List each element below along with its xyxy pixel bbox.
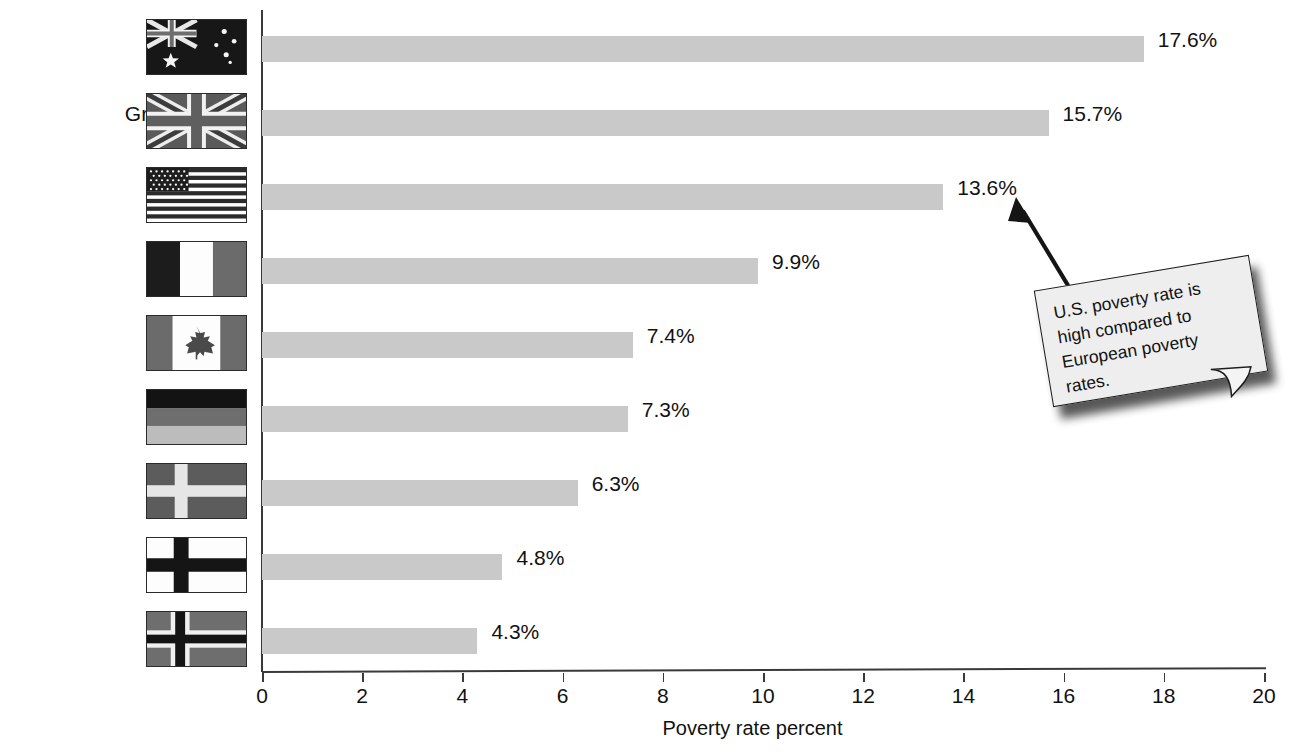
x-tick-label: 0	[237, 684, 287, 708]
x-tick	[362, 673, 364, 682]
x-tick-label: 12	[838, 684, 888, 708]
france-flag	[146, 241, 247, 297]
callout-page-curl-icon	[1208, 361, 1257, 402]
x-tick	[663, 673, 665, 682]
x-tick-label: 6	[538, 684, 588, 708]
bar-canada[interactable]	[262, 332, 633, 358]
norway-flag	[146, 611, 247, 667]
x-tick-label: 2	[337, 684, 387, 708]
great-britain-flag	[146, 93, 247, 149]
x-tick-label: 10	[738, 684, 788, 708]
bar-great-britain[interactable]	[262, 110, 1049, 136]
bar-value-label: 4.8%	[516, 546, 564, 570]
bar-norway[interactable]	[262, 628, 477, 654]
usa-flag	[146, 167, 247, 223]
bar-row: Finland4.8%	[0, 528, 1289, 602]
x-tick	[1164, 673, 1166, 682]
bar-value-label: 17.6%	[1158, 28, 1218, 52]
x-axis-title: Poverty rate percent	[0, 717, 1289, 740]
bar-australia[interactable]	[262, 36, 1144, 62]
x-tick-label: 8	[638, 684, 688, 708]
germany-flag	[146, 389, 247, 445]
callout-annotation: U.S. poverty rate is high compared to Eu…	[1036, 268, 1286, 418]
bar-finland[interactable]	[262, 554, 502, 580]
canada-flag	[146, 315, 247, 371]
x-tick	[563, 673, 565, 682]
x-tick	[462, 673, 464, 682]
x-axis-title-text: Poverty rate percent	[662, 717, 842, 739]
bar-row: Sweden6.3%	[0, 454, 1289, 528]
finland-flag	[146, 537, 247, 593]
bar-value-label: 6.3%	[592, 472, 640, 496]
bar-germany[interactable]	[262, 406, 628, 432]
x-tick-label: 16	[1039, 684, 1089, 708]
x-tick-label: 20	[1239, 684, 1289, 708]
bar-value-label: 7.4%	[647, 324, 695, 348]
bar-usa[interactable]	[262, 184, 943, 210]
x-tick	[763, 673, 765, 682]
bar-row: Great Britain15.7%	[0, 84, 1289, 158]
poverty-rate-bar-chart: Australia17.6%Great Britain15.7%USA13.6%…	[0, 0, 1289, 755]
australia-flag	[146, 19, 247, 75]
bar-value-label: 15.7%	[1063, 102, 1123, 126]
bar-row: Norway4.3%	[0, 602, 1289, 676]
bar-value-label: 7.3%	[642, 398, 690, 422]
bar-row: Australia17.6%	[0, 10, 1289, 84]
bar-value-label: 4.3%	[491, 620, 539, 644]
bar-value-label: 9.9%	[772, 250, 820, 274]
x-tick	[262, 673, 264, 682]
x-tick	[1264, 673, 1266, 682]
x-tick	[1064, 673, 1066, 682]
x-tick	[963, 673, 965, 682]
x-tick	[863, 673, 865, 682]
x-tick-label: 14	[938, 684, 988, 708]
sweden-flag	[146, 463, 247, 519]
x-tick-label: 18	[1139, 684, 1189, 708]
bar-sweden[interactable]	[262, 480, 578, 506]
x-tick-label: 4	[437, 684, 487, 708]
bar-france[interactable]	[262, 258, 758, 284]
